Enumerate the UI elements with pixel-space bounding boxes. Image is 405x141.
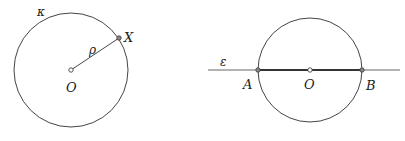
point-a — [256, 68, 260, 72]
label-x: X — [123, 30, 134, 45]
label-b: B — [365, 78, 376, 93]
label-a: A — [242, 77, 252, 92]
label-o-left: O — [66, 80, 77, 95]
point-b — [360, 68, 364, 72]
label-o-right: O — [304, 77, 315, 92]
point-x — [117, 36, 121, 40]
geometry-diagram: κ ρ X O ε A O B — [0, 0, 405, 141]
center-point-o-right — [308, 68, 312, 72]
center-point-o — [69, 68, 73, 72]
label-kappa: κ — [36, 5, 45, 19]
figure-left: κ ρ X O — [14, 5, 134, 127]
label-rho: ρ — [88, 43, 96, 57]
figure-right: ε A O B — [208, 18, 400, 122]
label-epsilon: ε — [220, 55, 226, 69]
